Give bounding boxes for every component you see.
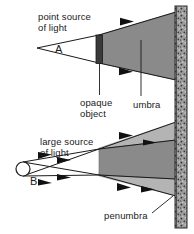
label-opaque-object: opaque object — [80, 97, 112, 119]
label-point-source: point source of light — [38, 11, 91, 33]
label-penumbra: penumbra — [104, 210, 148, 221]
label-point-source-line1: point source — [38, 11, 91, 22]
label-large-source: large source of light — [40, 136, 93, 158]
ray-arrowhead-bottom-lower — [117, 183, 131, 191]
label-source-b: B — [30, 176, 37, 187]
label-large-source-line1: large source — [40, 136, 93, 147]
ray-arrowhead-src-lower-outer — [38, 179, 52, 186]
opaque-object-top — [96, 35, 103, 64]
shadow-diagram-figure: point source of light A opaque object um… — [0, 0, 194, 234]
penumbra-leader-line — [152, 196, 173, 213]
label-large-source-line2: of light — [40, 147, 93, 158]
label-opaque-object-line2: object — [80, 108, 112, 119]
ray-arrowhead-top-upper — [120, 18, 134, 26]
large-light-source — [16, 162, 30, 176]
label-umbra: umbra — [133, 99, 160, 110]
label-point-source-line2: of light — [38, 22, 91, 33]
label-opaque-object-line1: opaque — [80, 97, 112, 108]
umbra-region-top — [99, 12, 176, 80]
label-source-a: A — [55, 44, 62, 55]
